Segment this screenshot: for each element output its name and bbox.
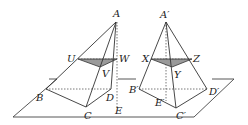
edge-ad-prime: [166, 22, 207, 89]
left-pyramid: A U V W B C D E: [35, 8, 130, 121]
label-u: U: [67, 53, 76, 64]
base-plane-front: [13, 79, 234, 117]
label-z: Z: [192, 53, 201, 64]
label-a: A: [112, 8, 120, 19]
label-x: X: [141, 53, 150, 64]
label-v: V: [102, 68, 111, 79]
edge-cd-prime: [176, 89, 207, 108]
label-c-prime: C′: [176, 110, 187, 121]
edge-bc: [46, 89, 86, 107]
label-b: B: [35, 92, 43, 103]
label-e: E: [114, 105, 123, 116]
label-d: D: [105, 92, 114, 103]
pyramids-diagram: A U V W B C D E A′ X Y Z B′ C′ D′ E′: [0, 0, 248, 125]
label-w: W: [119, 53, 130, 64]
cross-section-uvw: [78, 59, 117, 67]
edge-ad: [111, 22, 116, 89]
label-y: Y: [174, 69, 182, 80]
label-c: C: [84, 110, 92, 121]
right-pyramid: A′ X Y Z B′ C′ D′ E′: [128, 9, 220, 121]
label-b-prime: B′: [128, 84, 139, 95]
label-d-prime: D′: [208, 86, 220, 97]
label-a-prime: A′: [159, 9, 170, 20]
label-e-prime: E′: [154, 97, 165, 108]
